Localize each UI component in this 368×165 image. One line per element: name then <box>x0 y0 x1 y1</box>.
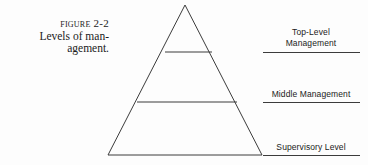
pyramid-outline <box>108 5 262 155</box>
level-label-rule-bottom <box>263 155 360 156</box>
level-label-top-line-2: Management <box>262 38 360 49</box>
level-label-top-level-management: Top-Level Management <box>262 27 360 48</box>
level-label-middle-line-1: Middle Management <box>262 89 360 100</box>
level-label-bottom-line-1: Supervisory Level <box>262 142 360 153</box>
level-label-top-line-1: Top-Level <box>262 27 360 38</box>
level-label-rule-middle <box>263 102 360 103</box>
level-label-rule-top <box>263 52 360 53</box>
level-label-middle-management: Middle Management <box>262 89 360 100</box>
level-label-supervisory-level: Supervisory Level <box>262 142 360 153</box>
figure-illustration: Figure 2-2 Levels of man- agement. Top-L… <box>0 0 368 165</box>
management-pyramid-diagram <box>0 0 368 165</box>
